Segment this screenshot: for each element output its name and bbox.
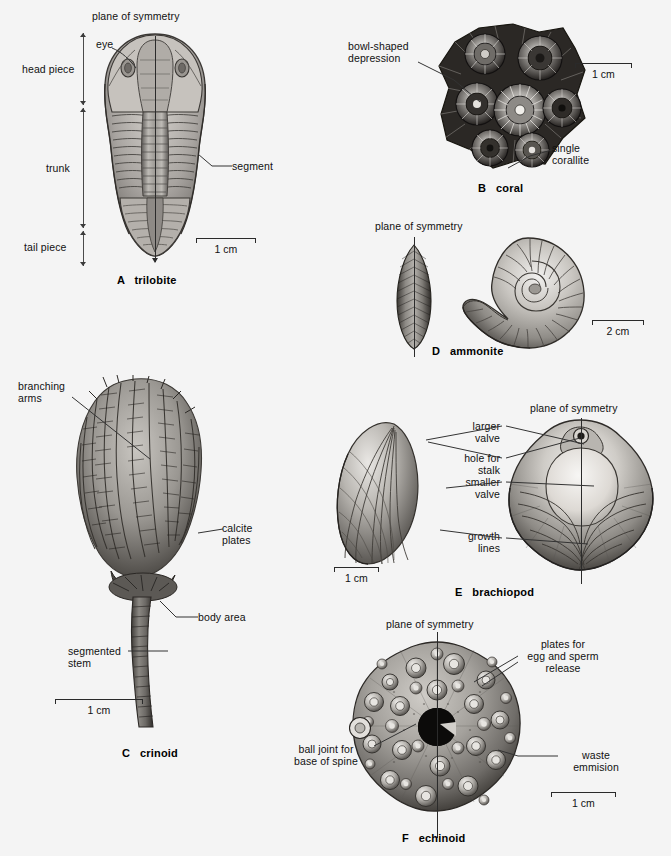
plane-arrow-bottom-trilobite — [152, 258, 158, 263]
label-plates-for-egg-and-sperm-release: plates for egg and sperm release — [508, 638, 618, 674]
leader-single-corallite — [508, 140, 554, 172]
leader-branching-arms — [72, 393, 154, 463]
scale-bar-label: 1 cm — [551, 797, 616, 809]
scale-bar-label: 1 cm — [575, 68, 632, 80]
leader-ball-joint-for-base-of-spine — [374, 720, 418, 750]
leader-plates-for-egg-and-sperm-release — [468, 652, 520, 688]
caption-crinoid: C crinoid — [122, 747, 178, 759]
bracket-tail-piece — [80, 231, 88, 266]
leader-smaller-valve — [398, 466, 598, 506]
label-segment: segment — [232, 160, 273, 172]
leader-hole-for-stalk — [398, 430, 588, 470]
leader-bowl-shaped-depression — [418, 56, 486, 108]
caption-coral: B coral — [478, 182, 523, 194]
panel-coral: bowl-shaped depression single corallite … — [330, 0, 671, 210]
label-body-area: body area — [198, 611, 246, 623]
plane-of-symmetry-line-echinoid — [437, 632, 438, 838]
label-plane-of-symmetry: plane of symmetry — [386, 618, 473, 630]
label-segmented-stem: segmented stem — [68, 645, 121, 669]
scale-bar-label: 1 cm — [334, 572, 379, 584]
bracket-head-piece — [80, 33, 88, 105]
leader-segment — [198, 152, 234, 172]
leader-calcite-plates — [198, 525, 224, 539]
label-plane-of-symmetry: plane of symmetry — [375, 220, 462, 232]
scale-bar-label: 2 cm — [592, 325, 644, 337]
label-branching-arms: branching arms — [18, 380, 65, 404]
label-bowl-shaped-depression: bowl-shaped depression — [348, 40, 409, 64]
label-trunk: trunk — [46, 162, 70, 174]
leader-segmented-stem — [128, 647, 170, 659]
label-plane-of-symmetry: plane of symmetry — [92, 10, 179, 22]
label-plane-of-symmetry: plane of symmetry — [530, 402, 617, 414]
ammonite-coiled-view — [460, 235, 590, 355]
label-calcite-plates: calcite plates — [222, 522, 252, 546]
leader-growth-lines — [398, 520, 598, 560]
panel-brachiopod: plane of symmetry larger valve hole for … — [320, 400, 671, 600]
leader-body-area — [160, 599, 200, 623]
label-waste-emmision: waste emmision — [558, 749, 634, 773]
label-head-piece: head piece — [22, 63, 74, 75]
plane-of-symmetry-line-trilobite — [155, 36, 156, 262]
label-single-corallite: single corallite — [552, 142, 589, 166]
scale-bar-label: 1 cm — [196, 243, 256, 255]
caption-trilobite: A trilobite — [117, 274, 177, 286]
caption-ammonite: D ammonite — [432, 345, 503, 357]
leader-eye — [110, 44, 140, 72]
bracket-trunk — [80, 108, 88, 228]
fossil-figure: plane of symmetry eye segment head piece… — [0, 0, 671, 856]
plane-of-symmetry-line-ammonite — [414, 237, 415, 357]
label-tail-piece: tail piece — [24, 241, 66, 253]
caption-echinoid: F echinoid — [402, 832, 466, 844]
panel-ammonite: plane of symmetry — [330, 215, 671, 360]
ball-joint-tubercle — [350, 718, 371, 739]
scale-bar-label: 1 cm — [55, 704, 143, 716]
panel-echinoid: plane of symmetry plates for egg and spe… — [270, 610, 671, 856]
panel-trilobite: plane of symmetry eye segment head piece… — [0, 0, 330, 300]
label-ball-joint-for-base-of-spine: ball joint for base of spine — [276, 743, 376, 767]
caption-brachiopod: E brachiopod — [455, 586, 534, 598]
leader-waste-emmision — [498, 748, 560, 772]
